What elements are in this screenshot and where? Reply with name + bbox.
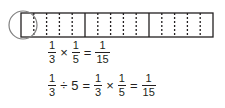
- fifth-dividers: [34, 13, 200, 37]
- equals-sign: =: [83, 78, 91, 93]
- denominator: 5: [72, 54, 80, 65]
- whole-number: 5: [71, 78, 78, 93]
- divide-operator: ÷: [60, 78, 67, 93]
- fraction: 1 5: [72, 40, 80, 65]
- equals-sign: =: [130, 78, 138, 93]
- numerator: 1: [94, 73, 102, 84]
- equation-multiplication: 1 3 × 1 5 = 1 15: [46, 40, 112, 65]
- denominator: 15: [142, 87, 156, 98]
- numerator: 1: [72, 40, 80, 51]
- denominator: 3: [94, 87, 102, 98]
- fraction: 1 3: [48, 40, 56, 65]
- numerator: 1: [48, 73, 56, 84]
- fraction-result: 1 15: [142, 73, 156, 98]
- fraction: 1 3: [48, 73, 56, 98]
- denominator: 5: [118, 87, 126, 98]
- numerator: 1: [48, 40, 56, 51]
- fraction: 1 3: [94, 73, 102, 98]
- times-operator: ×: [60, 45, 68, 60]
- numerator: 1: [145, 73, 153, 84]
- denominator: 3: [48, 87, 56, 98]
- denominator: 15: [95, 54, 109, 65]
- numerator: 1: [99, 40, 107, 51]
- fraction-strip-diagram: [0, 0, 225, 42]
- fraction-result: 1 15: [95, 40, 109, 65]
- equation-division: 1 3 ÷ 5 = 1 3 × 1 5 = 1 15: [46, 73, 158, 98]
- strip-outline: [21, 13, 213, 37]
- equals-sign: =: [84, 45, 92, 60]
- fraction: 1 5: [118, 73, 126, 98]
- highlight-circle: [9, 11, 37, 39]
- numerator: 1: [118, 73, 126, 84]
- times-operator: ×: [106, 78, 114, 93]
- denominator: 3: [48, 54, 56, 65]
